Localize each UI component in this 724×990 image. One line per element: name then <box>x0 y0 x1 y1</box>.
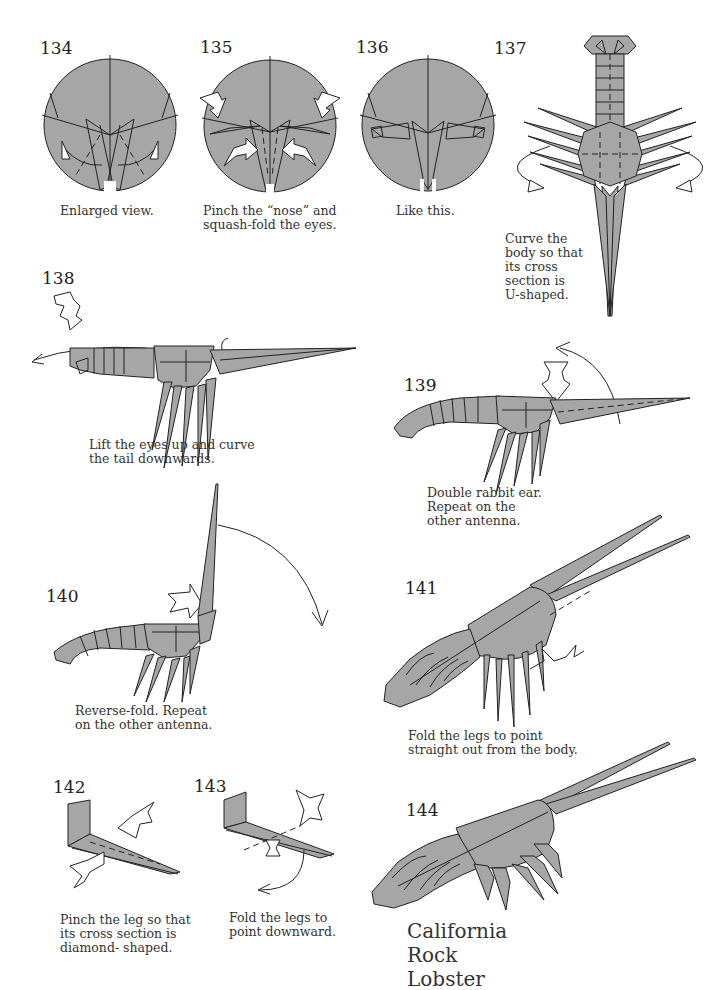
step-number: 135 <box>200 37 232 57</box>
leg-fold-down-diagram <box>220 790 370 900</box>
step-caption: Fold the legs to point downward. <box>229 911 336 939</box>
push-arrow-icon <box>266 840 280 856</box>
step-caption: Curve the body so that its cross section… <box>505 232 583 302</box>
step-caption: Pinch the leg so that its cross section … <box>60 913 191 955</box>
final-model-title: California Rock Lobster <box>407 919 507 990</box>
leg-pinch-diagram <box>60 800 200 900</box>
push-arrow-icon <box>168 584 202 618</box>
step-caption: Pinch the “nose” and squash-fold the eye… <box>203 204 337 232</box>
push-arrow-icon <box>542 362 570 402</box>
step-number: 138 <box>42 268 74 288</box>
push-arrow-icon <box>70 852 104 888</box>
step-number: 142 <box>53 777 85 797</box>
enlarged-head-circle-diagram <box>40 55 180 195</box>
push-arrow-icon <box>54 292 82 330</box>
pinch-nose-circle-diagram <box>200 56 340 196</box>
finished-lobster-diagram <box>368 740 708 920</box>
head-result-circle-diagram <box>358 55 498 195</box>
lobster-antenna-up-diagram <box>40 480 380 700</box>
push-arrow-icon <box>296 790 324 826</box>
step-caption: Reverse-fold. Repeat on the other antenn… <box>75 704 212 732</box>
lobster-side-curved-diagram <box>390 320 720 490</box>
lobster-3d-legs-down-diagram <box>370 505 710 735</box>
step-caption: Like this. <box>396 204 455 218</box>
step-number: 136 <box>356 37 388 57</box>
push-arrow-icon <box>118 802 154 838</box>
step-caption: Enlarged view. <box>60 204 154 218</box>
step-caption: Lift the eyes up and curve the tail down… <box>89 438 255 466</box>
lobster-side-flat-diagram <box>10 290 370 430</box>
